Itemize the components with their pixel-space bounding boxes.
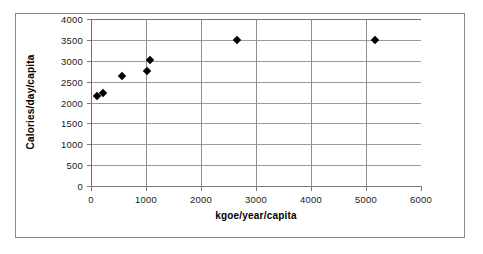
data-point <box>142 67 150 75</box>
data-point <box>233 36 241 44</box>
gridline-vertical <box>146 19 147 186</box>
data-point <box>371 36 379 44</box>
y-axis-tick-label: 500 <box>67 160 83 171</box>
gridline-vertical <box>91 19 92 186</box>
gridline-vertical <box>366 19 367 186</box>
y-axis-tick-label: 3000 <box>61 55 83 66</box>
y-axis-tick-label: 1000 <box>61 139 83 150</box>
y-axis-tick-label: 2500 <box>61 76 83 87</box>
gridline-horizontal <box>91 186 421 187</box>
gridline-vertical <box>256 19 257 186</box>
x-axis-title: kgoe/year/capita <box>215 210 297 221</box>
x-axis-tick-label: 5000 <box>355 194 377 205</box>
y-axis-tick-label: 4000 <box>61 14 83 25</box>
y-axis-tick-label: 3500 <box>61 34 83 45</box>
gridline-vertical <box>311 19 312 186</box>
x-axis-tick-label: 1000 <box>135 194 157 205</box>
plot-area <box>91 19 421 186</box>
x-axis-tick-label: 4000 <box>300 194 322 205</box>
chart-figure-frame: Calories/day/capita kgoe/year/capita 050… <box>15 13 465 238</box>
y-axis-tick-label: 0 <box>78 181 83 192</box>
x-axis-tick-label: 3000 <box>245 194 267 205</box>
gridline-vertical <box>201 19 202 186</box>
y-axis-tick-label: 2000 <box>61 97 83 108</box>
x-axis-tick-label: 6000 <box>410 194 432 205</box>
y-axis-title: Calories/day/capita <box>25 55 36 150</box>
x-axis-tick-mark <box>421 186 422 191</box>
data-point <box>118 72 126 80</box>
x-axis-tick-label: 0 <box>88 194 93 205</box>
x-axis-tick-label: 2000 <box>190 194 212 205</box>
data-point <box>146 56 154 64</box>
y-axis-tick-label: 1500 <box>61 118 83 129</box>
